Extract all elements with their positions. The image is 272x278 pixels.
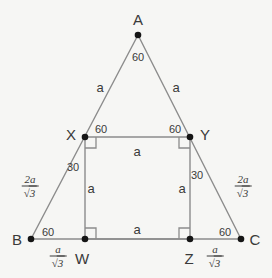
- length-BW-fraction-numerator: a: [50, 244, 67, 256]
- length-ZC-fraction-numerator: a: [207, 244, 224, 256]
- length-CY-fraction-denominator: √3: [235, 187, 252, 199]
- right-angle-markers-layer: [85, 137, 190, 239]
- vertex-point-a: [135, 32, 142, 39]
- length-ZC-fraction-radicand: 3: [214, 256, 222, 269]
- length-CY-fraction-radicand: 3: [242, 186, 250, 199]
- length-BX-fraction-numerator: 2a: [22, 174, 39, 186]
- geometry-figure: ABCXYWZ 60606060603030 aaaaaa 2a√32a√3a√…: [0, 0, 272, 278]
- vertex-point-x: [82, 134, 89, 141]
- length-BW-fraction-denominator: √3: [50, 257, 67, 269]
- length-BW-fraction: a√3: [50, 244, 67, 269]
- length-BX-fraction-radicand: 3: [29, 186, 37, 199]
- vertex-point-y: [187, 134, 194, 141]
- figure-canvas: [0, 0, 272, 278]
- length-BX-fraction: 2a√3: [22, 174, 39, 199]
- vertex-point-w: [82, 236, 89, 243]
- length-BX-fraction-denominator: √3: [22, 187, 39, 199]
- length-CY-fraction: 2a√3: [235, 174, 252, 199]
- vertex-point-z: [187, 236, 194, 243]
- length-ZC-fraction: a√3: [207, 244, 224, 269]
- length-CY-fraction-numerator: 2a: [235, 174, 252, 186]
- length-ZC-fraction-denominator: √3: [207, 257, 224, 269]
- vertex-point-c: [238, 236, 245, 243]
- length-BW-fraction-radicand: 3: [57, 256, 65, 269]
- vertex-point-b: [28, 236, 35, 243]
- segments-layer: [31, 35, 241, 239]
